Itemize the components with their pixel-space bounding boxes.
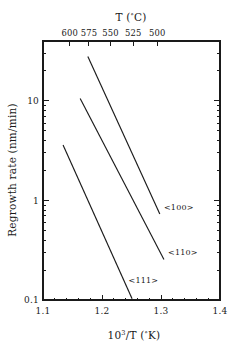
x-title-rest: /T ( [126,329,145,341]
y-tick-label: 1 [33,196,39,206]
x-tick-label: 1.2 [95,306,110,316]
secondary-x-tick-label: 550 [102,28,119,38]
regrowth-rate-arrhenius-plot: T (°C) 600575550525500 <100><110><111> 1… [0,0,239,356]
y-axis-title: Regrowth rate (nm/min) [6,103,18,236]
top-title-unit: C) [134,11,147,23]
x-title-base: 10 [108,329,122,341]
secondary-x-tick-label: 500 [149,28,166,38]
x-tick-label: 1.3 [154,306,169,316]
secondary-x-tick-label: 525 [125,28,142,38]
x-tick-label: 1.1 [36,306,51,316]
x-title-unit: K) [148,329,160,341]
series-label-110: <110> [168,248,198,257]
secondary-x-tick-labels: 600575550525500 [62,28,166,38]
secondary-x-tick-label: 575 [81,28,98,38]
secondary-x-tick-label: 600 [62,28,79,38]
y-tick-label: 0.1 [24,295,39,305]
series-label-111: <111> [129,276,159,285]
chart-figure: T (°C) 600575550525500 <100><110><111> 1… [0,0,239,356]
x-axis-title: 103/T (°K) [108,329,161,341]
x-tick-label: 1.4 [213,306,228,316]
series-label-100: <100> [164,203,194,212]
y-tick-label: 10 [27,96,39,106]
top-title-lead: T ( [115,11,130,23]
